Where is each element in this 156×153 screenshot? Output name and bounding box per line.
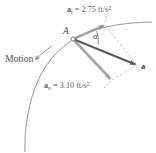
dashed-leader-tangential-label	[105, 16, 106, 24]
diagram-canvas	[0, 0, 156, 153]
tangential-value: 2.75	[81, 5, 95, 14]
normal-subscript: n	[48, 85, 51, 91]
point-a-label: A	[63, 27, 69, 36]
normal-unit: ft/s	[76, 81, 86, 90]
tangential-acceleration-label: at = 2.75 ft/s2	[67, 6, 111, 16]
normal-acceleration-label: an = 3.10 ft/s2	[44, 82, 90, 92]
dashed-leader-normal-label	[104, 81, 111, 88]
acceleration-diagram: at = 2.75 ft/s2 an = 3.10 ft/s2 Motion A…	[0, 0, 156, 153]
normal-equals: =	[53, 81, 58, 90]
resultant-acceleration-label: a	[141, 62, 145, 71]
motion-label: Motion	[5, 54, 33, 64]
tangential-equals: =	[75, 5, 80, 14]
normal-acceleration-vector	[73, 39, 111, 79]
normal-exponent: 2	[87, 81, 90, 87]
motion-direction-arrow	[35, 46, 52, 60]
tangential-subscript: t	[71, 9, 73, 15]
angle-alpha-label: α	[93, 33, 97, 41]
point-a-marker	[71, 37, 75, 41]
normal-value: 3.10	[60, 81, 74, 90]
tangential-unit: ft/s	[98, 5, 108, 14]
dashed-construction-lower	[112, 65, 137, 80]
tangential-exponent: 2	[108, 5, 111, 11]
tangential-acceleration-vector	[73, 26, 104, 40]
